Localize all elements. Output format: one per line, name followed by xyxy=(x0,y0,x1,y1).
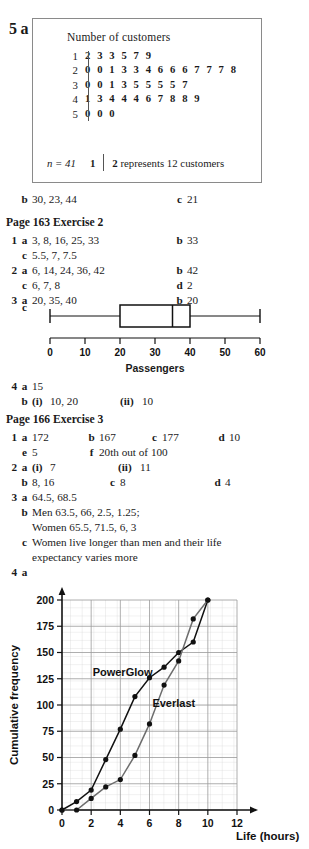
data-point xyxy=(191,639,196,644)
leaf-values: 1 3 4 4 4 6 7 8 8 9 xyxy=(85,92,202,106)
answer-value: 6, 7, 8 xyxy=(32,278,172,292)
answer-value-continuation: expectancy varies more xyxy=(32,550,309,564)
data-point xyxy=(176,658,181,663)
y-tick-75: 75 xyxy=(42,725,54,737)
answer-value: 7 xyxy=(50,460,118,474)
exercise-3-section: Page 166 Exercise 3 1 a 172 b 167 c 177 … xyxy=(0,413,309,579)
answer-row: Women 65.5, 71.5, 6, 3 xyxy=(0,520,309,534)
part-letter: b xyxy=(172,233,187,247)
data-point xyxy=(161,682,166,687)
chart-y-axis-title: Cumulative frequency xyxy=(8,644,20,765)
data-point xyxy=(103,784,108,789)
x-tick-6: 6 xyxy=(147,817,153,829)
part-letter: c xyxy=(105,475,120,489)
key-leaf: 2 xyxy=(112,157,117,169)
boxplot-tick-10: 10 xyxy=(79,347,91,358)
part-letter: a xyxy=(17,379,32,393)
answer-row: b (i) 10, 20 (ii) 10 xyxy=(0,394,309,408)
boxplot-tick-50: 50 xyxy=(219,347,231,358)
data-point xyxy=(132,753,137,758)
answer-value: 20th out of 100 xyxy=(99,445,168,459)
answer-value: 10, 20 xyxy=(50,394,120,408)
x-tick-0: 0 xyxy=(59,817,65,829)
roman-ii: (ii) xyxy=(118,460,140,474)
roman-ii: (ii) xyxy=(120,394,142,408)
answer-value-continuation: Women 65.5, 71.5, 6, 3 xyxy=(32,520,309,534)
part-letter: c xyxy=(17,248,32,262)
answer-value: Women live longer than men and their lif… xyxy=(32,535,309,549)
stem-leaf-divider xyxy=(88,51,89,121)
stem-value: 4 xyxy=(33,92,85,106)
answer-row: 2 a 6, 14, 24, 36, 42 b 42 xyxy=(0,263,309,277)
annotation-powerglow: PowerGlow xyxy=(93,666,153,678)
chart-x-tick-labels: 024681012 xyxy=(59,817,243,829)
x-tick-8: 8 xyxy=(176,817,182,829)
stem-value: 3 xyxy=(33,78,85,92)
q5-parts-bc: b 30, 23, 44 c 21 xyxy=(0,192,309,206)
stem-leaf-row: 2 0 0 1 3 3 4 6 6 6 7 7 7 8 xyxy=(33,63,261,77)
boxplot-tick-60: 60 xyxy=(254,347,266,358)
key-divider xyxy=(103,154,104,171)
leaf-values: 0 0 0 xyxy=(85,107,117,121)
stem-value: 2 xyxy=(33,63,85,77)
data-point xyxy=(161,665,166,670)
part-letter-b: b xyxy=(17,192,32,206)
answer-value: 33 xyxy=(187,233,309,247)
answer-row: 4 a 15 xyxy=(0,379,309,393)
answer-value: 177 xyxy=(162,430,214,444)
cumulative-frequency-chart: 0255075100125150175200 024681012 PowerGl… xyxy=(0,583,309,849)
answer-row: c 5.5, 7, 7.5 xyxy=(0,248,309,262)
roman-i: (i) xyxy=(32,394,50,408)
answer-row: 1 a 172 b 167 c 177 d 10 xyxy=(0,430,309,444)
exercise-2-answers: 1 a 3, 8, 16, 25, 33 b 33 c 5.5, 7, 7.5 … xyxy=(0,233,309,307)
y-tick-50: 50 xyxy=(42,751,54,763)
part-letter: a xyxy=(17,430,32,444)
data-point xyxy=(191,616,196,621)
answer-value: Men 63.5, 66, 2.5, 1.25; xyxy=(32,505,309,519)
data-point xyxy=(118,727,123,732)
answers-page: 5 a Number of customers 1 2 3 3 5 7 9 2 … xyxy=(0,0,309,849)
x-tick-2: 2 xyxy=(88,817,94,829)
part-letter-c: c xyxy=(17,300,32,314)
boxplot-tick-0: 0 xyxy=(47,347,53,358)
x-tick-10: 10 xyxy=(202,817,214,829)
question-number: 1 xyxy=(0,430,17,444)
answer-value: 15 xyxy=(32,379,309,393)
answer-row: c 6, 7, 8 d 2 xyxy=(0,278,309,292)
stem-and-leaf-header-row: 5 a Number of customers 1 2 3 3 5 7 9 2 … xyxy=(0,18,309,183)
y-tick-25: 25 xyxy=(42,778,54,790)
answer-row: b Men 63.5, 66, 2.5, 1.25; xyxy=(0,505,309,519)
stem-and-leaf-rows: 1 2 3 3 5 7 9 2 0 0 1 3 3 4 6 6 6 7 7 7 … xyxy=(33,49,261,121)
y-tick-0: 0 xyxy=(48,804,54,816)
boxplot-tick-20: 20 xyxy=(114,347,126,358)
answer-value: 10 xyxy=(229,430,240,444)
part-letter: a xyxy=(17,460,32,474)
part-letter: a xyxy=(17,565,32,579)
stem-and-leaf-section: 5 a Number of customers 1 2 3 3 5 7 9 2 … xyxy=(0,18,309,183)
answer-value-b: 30, 23, 44 xyxy=(32,192,172,206)
answer-value: 6, 14, 24, 36, 42 xyxy=(32,263,172,277)
stem-leaf-row: 5 0 0 0 xyxy=(33,107,261,121)
exercise-2-heading: Page 163 Exercise 2 xyxy=(6,216,309,229)
y-tick-150: 150 xyxy=(36,646,54,658)
answer-value: 3, 8, 16, 25, 33 xyxy=(32,233,172,247)
answer-value: 11 xyxy=(140,460,151,474)
x-tick-12: 12 xyxy=(231,817,243,829)
boxplot-tick-40: 40 xyxy=(184,347,196,358)
part-letter: c xyxy=(17,278,32,292)
exercise-2-q4: 4 a 15 b (i) 10, 20 (ii) 10 xyxy=(0,379,309,408)
part-letter: b xyxy=(17,475,32,489)
part-letter: a xyxy=(17,233,32,247)
stem-leaf-row: 3 0 0 1 3 5 5 5 5 7 xyxy=(33,78,261,92)
part-letter-c: c xyxy=(172,192,187,206)
question-number: 1 xyxy=(0,233,17,247)
y-tick-175: 175 xyxy=(36,620,54,632)
question-number: 2 xyxy=(0,263,17,277)
data-point xyxy=(147,721,152,726)
answer-value: 172 xyxy=(32,430,84,444)
answer-row: 2 a (i) 7 (ii) 11 xyxy=(0,460,309,474)
answer-row: e 5 f 20th out of 100 xyxy=(0,445,309,459)
part-letter: b xyxy=(172,263,187,277)
question-number: 4 xyxy=(0,379,17,393)
answer-value: 167 xyxy=(99,430,147,444)
